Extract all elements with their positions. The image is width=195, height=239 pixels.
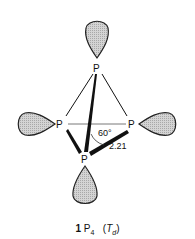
bond-top-right (102, 74, 127, 116)
lone-pair-lobe-top (86, 21, 109, 58)
paren-close: ) (116, 223, 119, 234)
lone-pair-lobe-bottom (73, 166, 97, 204)
atom-p-right: P (128, 119, 135, 130)
formula: P4 (84, 223, 95, 234)
atom-p-left: P (56, 119, 63, 130)
atom-p-top: P (93, 63, 100, 74)
formula-element: P (84, 223, 91, 234)
bond-top-left (66, 74, 93, 116)
angle-label: 60° (98, 128, 112, 138)
lone-pair-lobe-left (18, 113, 55, 136)
lone-pair-lobe-right (139, 113, 176, 136)
bond-length-label: 2.21 (109, 141, 127, 151)
atom-p-bottom: P (81, 154, 88, 165)
point-group: (Td) (103, 223, 120, 234)
p4-tetrahedron-diagram: P P P P 60° 2.21 (0, 0, 195, 239)
bond-left-bottom-wedge (66, 129, 82, 154)
figure-caption: 1 P4 (Td) (0, 223, 195, 236)
formula-subscript: 4 (91, 229, 95, 236)
compound-number: 1 (76, 223, 82, 234)
